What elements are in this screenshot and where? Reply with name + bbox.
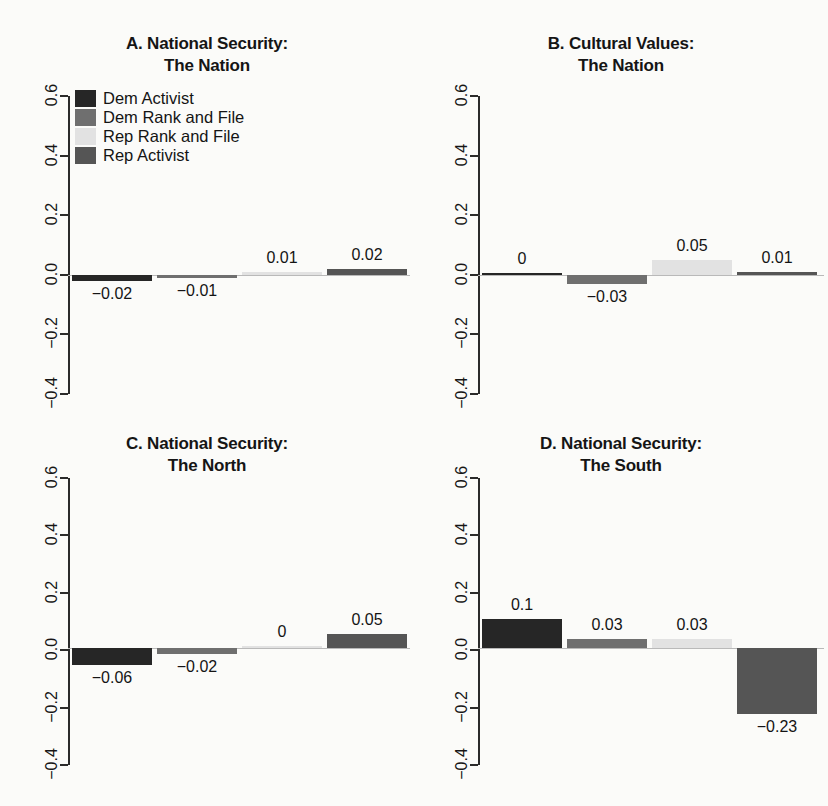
y-axis-tick [470,274,478,276]
y-axis-tick [470,592,478,594]
y-axis-tick-label: 0.4 [43,506,61,562]
bar-value-label: −0.01 [144,282,250,300]
y-axis-tick [60,274,68,276]
y-axis-tick [60,592,68,594]
y-axis-tick-label: 0.2 [453,186,471,242]
legend-swatch-icon [75,90,96,107]
bar [652,260,732,275]
bar [327,269,407,275]
y-axis-tick [470,534,478,536]
zero-baseline [478,275,824,276]
y-axis-tick [60,393,68,395]
panel-c: C. National Security:The North0.60.40.20… [0,403,414,806]
y-axis-tick [60,649,68,651]
y-axis-tick [60,534,68,536]
y-axis-tick-label: 0.2 [43,564,61,620]
y-axis-line [68,96,70,394]
y-axis-tick [60,214,68,216]
bar-value-label: 0.01 [724,249,828,267]
y-axis-tick-label: −0.4 [453,736,471,792]
y-axis-tick [470,393,478,395]
legend-swatch-icon [75,128,96,145]
y-axis-tick [470,707,478,709]
y-axis-tick-label: −0.2 [453,679,471,735]
panel-a: A. National Security:The Nation0.60.40.2… [0,0,414,403]
bar [242,646,322,649]
panel-title: D. National Security:The South [414,433,828,477]
bar [482,619,562,648]
panel-title: B. Cultural Values:The Nation [414,33,828,77]
y-axis-tick [470,764,478,766]
panel-title-line1: D. National Security: [540,434,702,453]
y-axis-tick-label: 0.6 [43,67,61,123]
y-axis-tick-label: −0.2 [453,305,471,361]
y-axis-tick [470,214,478,216]
legend-item: Rep Rank and File [75,127,244,146]
legend-swatch-icon [75,147,96,164]
panel-d: D. National Security:The South0.60.40.20… [414,403,828,806]
legend: Dem ActivistDem Rank and FileRep Rank an… [75,89,244,165]
y-axis-tick [60,707,68,709]
y-axis-tick-label: 0.2 [43,186,61,242]
y-axis-tick [60,764,68,766]
bar-value-label: 0.03 [639,616,745,634]
y-axis-tick [470,95,478,97]
panel-title-line2: The Nation [414,55,828,77]
panel-title-line2: The South [414,455,828,477]
y-axis-tick [60,155,68,157]
y-axis-tick [60,95,68,97]
y-axis-tick-label: 0.6 [453,449,471,505]
bar [327,634,407,648]
panel-title-line2: The North [0,455,414,477]
legend-item-label: Dem Activist [103,89,194,108]
bar [157,275,237,278]
panel-title: A. National Security:The Nation [0,33,414,77]
bar-value-label: −0.02 [144,658,250,676]
y-axis-tick-label: −0.2 [43,305,61,361]
y-axis-tick-label: 0.6 [43,449,61,505]
legend-swatch-icon [75,109,96,126]
y-axis-tick-label: 0.6 [453,67,471,123]
legend-item-label: Rep Activist [103,146,189,165]
bar-value-label: 0.02 [314,246,420,264]
y-axis-tick [60,333,68,335]
panel-title-line1: B. Cultural Values: [548,34,694,53]
y-axis-tick [470,477,478,479]
bar-value-label: 0.05 [314,611,420,629]
legend-item-label: Rep Rank and File [103,127,240,146]
legend-item: Rep Activist [75,146,244,165]
bar [72,648,152,665]
y-axis-tick-label: 0.0 [453,621,471,677]
legend-item: Dem Activist [75,89,244,108]
bar [737,648,817,714]
y-axis-line [478,478,480,765]
y-axis-tick-label: −0.4 [43,736,61,792]
y-axis-tick-label: 0.4 [453,127,471,183]
y-axis-line [68,478,70,765]
figure-four-panel-bar-charts: A. National Security:The Nation0.60.40.2… [0,0,828,806]
y-axis-tick-label: 0.4 [43,127,61,183]
bar [737,272,817,275]
bar [157,648,237,654]
y-axis-tick [60,477,68,479]
bar-value-label: 0.1 [469,596,575,614]
bar [72,275,152,281]
bar-value-label: −0.03 [554,288,660,306]
panel-title: C. National Security:The North [0,433,414,477]
y-axis-tick [470,155,478,157]
bar [242,272,322,275]
bar-value-label: −0.23 [724,718,828,736]
bar [652,639,732,648]
y-axis-tick [470,333,478,335]
panel-b: B. Cultural Values:The Nation0.60.40.20.… [414,0,828,403]
bar-value-label: 0 [469,250,575,268]
panel-title-line2: The Nation [0,55,414,77]
y-axis-line [478,96,480,394]
bar [567,639,647,648]
bar [482,273,562,276]
panel-title-line1: A. National Security: [126,34,288,53]
bar [567,275,647,284]
y-axis-tick [470,649,478,651]
y-axis-tick-label: 0.4 [453,506,471,562]
legend-item: Dem Rank and File [75,108,244,127]
